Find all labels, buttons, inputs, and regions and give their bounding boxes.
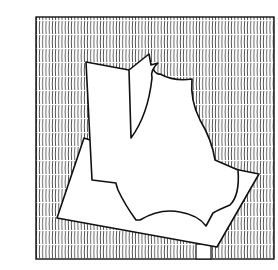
- illustration: [0, 0, 278, 270]
